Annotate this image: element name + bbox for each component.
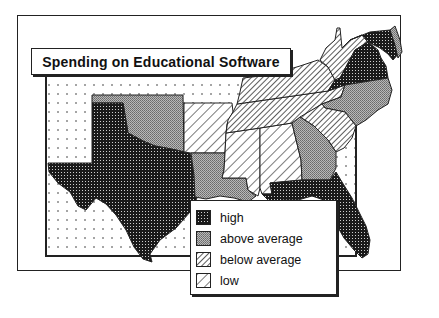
legend-item-above-average: above average — [196, 228, 336, 249]
legend-label: below average — [220, 253, 301, 267]
above-average-swatch-icon — [196, 231, 211, 246]
legend-label: high — [220, 211, 244, 225]
legend-item-high: high — [196, 207, 336, 228]
legend-label: low — [220, 274, 239, 288]
map-title: Spending on Educational Software — [31, 48, 291, 75]
legend-item-below-average: below average — [196, 249, 336, 270]
legend-label: above average — [220, 232, 303, 246]
below-average-swatch-icon — [196, 252, 211, 267]
legend: high above average below average low — [190, 200, 337, 295]
low-swatch-icon — [196, 273, 211, 288]
legend-item-low: low — [196, 270, 336, 291]
high-swatch-icon — [196, 210, 211, 225]
map-title-text: Spending on Educational Software — [42, 54, 279, 70]
